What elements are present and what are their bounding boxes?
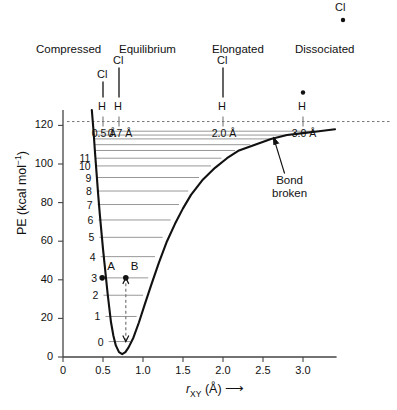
- plot-canvas: [0, 0, 397, 410]
- molecule-0-top-atom: Cl: [97, 69, 107, 80]
- vibrational-level-9: 9: [77, 173, 91, 184]
- molecule-2-bottom-atom: H: [218, 101, 226, 112]
- x-tick-1.0: 1.0: [128, 365, 158, 376]
- y-tick-60: 60: [23, 235, 53, 246]
- molecule-1-top-atom: Cl: [113, 55, 123, 66]
- annotation-line-1: Bond: [276, 174, 303, 186]
- vibrational-level-1: 1: [86, 311, 100, 322]
- y-tick-80: 80: [23, 197, 53, 208]
- state-label-equilibrium: Equilibrium: [119, 44, 176, 56]
- annotation-line-2: broken: [272, 187, 307, 199]
- x-tick-0.5: 0.5: [88, 365, 118, 376]
- x-tick-2.5: 2.5: [248, 365, 278, 376]
- x-tick-1.5: 1.5: [168, 365, 198, 376]
- molecule-2-distance: 2.0 Å: [207, 128, 241, 139]
- molecule-1-bottom-atom: H: [114, 101, 122, 112]
- y-tick-120: 120: [23, 119, 53, 130]
- annotation-arrow: [273, 137, 284, 174]
- vibrational-level-3: 3: [83, 273, 97, 284]
- y-tick-40: 40: [23, 274, 53, 285]
- vibrational-level-4: 4: [82, 252, 96, 263]
- morse-curve: [92, 110, 335, 354]
- potential-energy-diagram: Compressed Equilibrium Elongated Dissoci…: [0, 0, 397, 410]
- x-tick-0: 0: [48, 365, 78, 376]
- point-label-b: B: [131, 261, 139, 273]
- molecule-3-bottom-atom: H: [298, 101, 306, 112]
- vibrational-level-8: 8: [78, 186, 92, 197]
- state-label-dissociated: Dissociated: [295, 44, 354, 56]
- molecule-1-distance: 0.7 Å: [103, 128, 137, 139]
- axes: [58, 110, 337, 362]
- y-tick-100: 100: [23, 158, 53, 169]
- vibrational-level-11: 11: [76, 153, 90, 164]
- x-tick-3.0: 3.0: [288, 365, 318, 376]
- vibrational-level-0: 0: [90, 337, 104, 348]
- radical-cl-label: Cl: [335, 2, 345, 13]
- molecule-2-top-atom: Cl: [217, 55, 227, 66]
- x-tick-2.0: 2.0: [208, 365, 238, 376]
- vibrational-level-7: 7: [79, 200, 93, 211]
- y-tick-20: 20: [23, 312, 53, 323]
- vibrational-level-6: 6: [79, 215, 93, 226]
- y-tick-0: 0: [23, 351, 53, 362]
- molecule-3-distance: 3.0 Å: [287, 128, 321, 139]
- state-label-compressed: Compressed: [36, 44, 101, 56]
- point-label-a: A: [107, 261, 115, 273]
- vibrational-level-5: 5: [80, 232, 94, 243]
- vibrational-level-2: 2: [84, 290, 98, 301]
- annotation-bond-broken: Bondbroken: [261, 174, 319, 200]
- transition-arrow: [123, 278, 129, 342]
- x-axis-title: rXY (Å) ⟶: [140, 381, 290, 399]
- molecule-0-bottom-atom: H: [98, 101, 106, 112]
